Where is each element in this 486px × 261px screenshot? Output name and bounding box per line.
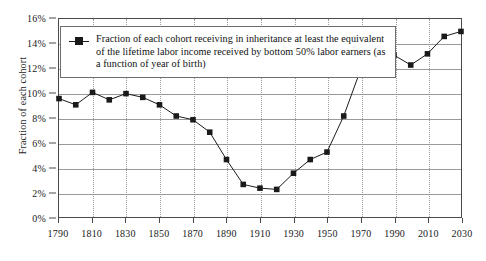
data-point-marker (106, 97, 112, 103)
data-point-marker (173, 113, 179, 119)
x-axis-tick-label: 1810 (81, 228, 102, 239)
data-point-marker (257, 185, 263, 191)
x-axis-labels: 1790181018301850187018901910193019501970… (58, 222, 462, 248)
data-point-marker (307, 157, 313, 163)
x-axis-tick (462, 218, 463, 223)
y-axis-tick (49, 93, 56, 94)
x-axis-tick-label: 1910 (250, 228, 271, 239)
x-axis-tick (58, 218, 59, 223)
data-point-marker (73, 102, 79, 108)
data-point-marker (240, 182, 246, 188)
x-axis-tick-label: 2010 (418, 228, 439, 239)
y-axis-tick (49, 218, 56, 219)
chart-legend: Fraction of each cohort receiving in inh… (60, 26, 396, 78)
y-axis-labels: 0%2%4%6%8%10%12%14%16% (0, 18, 56, 218)
data-point-marker (157, 102, 163, 108)
y-axis-tick-label: 10% (27, 88, 46, 99)
data-point-marker (408, 62, 414, 68)
data-point-marker (291, 170, 297, 176)
data-point-marker (123, 91, 129, 97)
y-axis-tick (49, 68, 56, 69)
legend-label: Fraction of each cohort receiving in inh… (96, 33, 388, 71)
data-point-marker (190, 117, 196, 123)
data-point-marker (207, 129, 213, 135)
x-axis-tick (260, 218, 261, 223)
y-axis-tick-label: 4% (32, 163, 46, 174)
y-axis-tick-label: 2% (32, 188, 46, 199)
legend-marker-icon (69, 35, 89, 47)
data-point-marker (56, 96, 62, 102)
data-point-marker (324, 149, 330, 155)
y-axis-tick (49, 193, 56, 194)
x-axis-tick (92, 218, 93, 223)
y-axis-tick (49, 168, 56, 169)
x-axis-tick-label: 1830 (115, 228, 136, 239)
y-axis-tick-label: 12% (27, 63, 46, 74)
x-axis-tick-label: 1850 (149, 228, 170, 239)
x-axis-tick (226, 218, 227, 223)
data-point-marker (274, 187, 280, 193)
data-point-marker (341, 113, 347, 119)
x-axis-tick (361, 218, 362, 223)
x-axis-tick-label: 1970 (351, 228, 372, 239)
data-point-marker (224, 157, 230, 163)
x-axis-tick-label: 1790 (48, 228, 69, 239)
x-axis-tick-label: 1990 (384, 228, 405, 239)
data-point-marker (441, 34, 447, 40)
y-axis-tick-label: 16% (27, 13, 46, 24)
y-axis-tick-label: 6% (32, 138, 46, 149)
y-axis-tick (49, 118, 56, 119)
x-axis-tick (428, 218, 429, 223)
y-axis-tick-label: 14% (27, 38, 46, 49)
x-axis-tick-label: 1930 (283, 228, 304, 239)
y-axis-tick (49, 143, 56, 144)
x-axis-tick (327, 218, 328, 223)
x-axis-tick-label: 1950 (317, 228, 338, 239)
x-axis-tick-label: 2030 (452, 228, 473, 239)
data-point-marker (458, 29, 464, 35)
data-point-marker (90, 90, 96, 96)
data-point-marker (140, 95, 146, 101)
y-axis-tick (49, 18, 56, 19)
y-axis-tick-label: 8% (32, 113, 46, 124)
x-axis-tick (125, 218, 126, 223)
x-axis-tick-label: 1890 (216, 228, 237, 239)
x-axis-tick (159, 218, 160, 223)
chart-container: Fraction of each cohort 0%2%4%6%8%10%12%… (0, 0, 486, 261)
y-axis-tick (49, 43, 56, 44)
y-axis-tick-label: 0% (32, 213, 46, 224)
data-point-marker (425, 51, 431, 57)
x-axis-tick (294, 218, 295, 223)
x-axis-tick (395, 218, 396, 223)
x-axis-tick (193, 218, 194, 223)
x-axis-tick-label: 1870 (182, 228, 203, 239)
